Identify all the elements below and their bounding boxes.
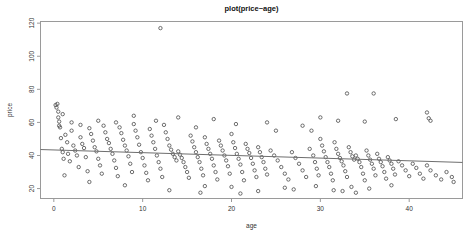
data-point [175, 159, 178, 162]
x-tick-label: 0 [52, 205, 56, 212]
data-point [154, 119, 157, 122]
data-point [258, 150, 261, 153]
data-point [384, 177, 387, 180]
data-point [159, 167, 162, 170]
data-point [86, 170, 89, 173]
data-point [452, 180, 455, 183]
data-point [77, 165, 80, 168]
data-point [363, 179, 366, 182]
data-point [429, 119, 432, 122]
data-point [88, 180, 91, 183]
data-point [134, 129, 137, 132]
data-point [340, 160, 343, 163]
data-point [276, 159, 279, 162]
data-point [394, 117, 397, 120]
data-point [358, 160, 361, 163]
x-axis-label: age [246, 222, 257, 230]
data-point [329, 172, 332, 175]
data-point [66, 152, 69, 155]
data-point [445, 170, 448, 173]
data-point [315, 167, 318, 170]
data-point [212, 164, 215, 167]
data-point [105, 137, 108, 140]
data-point [132, 122, 135, 125]
data-point [57, 116, 60, 119]
data-point [217, 139, 220, 142]
data-point [203, 136, 206, 139]
data-point [157, 160, 160, 163]
data-point [361, 172, 364, 175]
data-point [198, 160, 201, 163]
regression-line [41, 150, 463, 163]
data-point [89, 132, 92, 135]
data-point [283, 172, 286, 175]
data-point [127, 155, 130, 158]
data-point [345, 175, 348, 178]
data-point [148, 127, 151, 130]
data-point [287, 178, 290, 181]
data-point [422, 177, 425, 180]
data-point [336, 119, 339, 122]
y-tick-label: 60 [28, 118, 35, 126]
data-point [439, 178, 442, 181]
data-point [354, 191, 357, 194]
data-point [210, 157, 213, 160]
data-point [182, 160, 185, 163]
data-point [121, 138, 124, 141]
data-point [141, 156, 144, 159]
data-point [370, 162, 373, 165]
data-point [381, 165, 384, 168]
data-point [386, 155, 389, 158]
data-point [120, 131, 123, 134]
data-point [207, 147, 210, 150]
data-point [312, 154, 315, 157]
data-point [230, 185, 233, 188]
data-point [180, 156, 183, 159]
data-point [425, 111, 428, 114]
data-point [372, 92, 375, 95]
data-point [200, 167, 203, 170]
data-point [294, 156, 297, 159]
data-point [450, 175, 453, 178]
data-point [194, 126, 197, 129]
data-point [104, 131, 107, 134]
data-point [173, 155, 176, 158]
data-point [189, 134, 192, 137]
data-point [82, 146, 85, 149]
data-point [425, 164, 428, 167]
data-point [109, 147, 112, 150]
data-point [265, 121, 268, 124]
data-point [93, 146, 96, 149]
data-point [226, 165, 229, 168]
data-point [196, 155, 199, 158]
data-point [161, 175, 164, 178]
data-point [216, 178, 219, 181]
data-point [203, 184, 206, 187]
data-point [166, 137, 169, 140]
data-point [322, 150, 325, 153]
data-point [212, 117, 215, 120]
data-point [159, 26, 162, 29]
data-point [297, 162, 300, 165]
data-point [246, 147, 249, 150]
data-point [333, 141, 336, 144]
data-point [242, 179, 245, 182]
data-point [319, 137, 322, 140]
data-point [418, 172, 421, 175]
y-tick-label: 120 [28, 17, 35, 28]
data-point [240, 170, 243, 173]
x-tick-label: 40 [406, 205, 414, 212]
data-point [100, 172, 103, 175]
data-point [199, 191, 202, 194]
data-point [253, 169, 256, 172]
data-point [57, 120, 60, 123]
data-point [233, 146, 236, 149]
data-point [132, 114, 135, 117]
data-point [404, 169, 407, 172]
data-point [304, 175, 307, 178]
data-point [400, 164, 403, 167]
data-point [342, 164, 345, 167]
y-tick-label: 80 [28, 85, 35, 93]
data-point [214, 170, 217, 173]
data-point [256, 146, 259, 149]
